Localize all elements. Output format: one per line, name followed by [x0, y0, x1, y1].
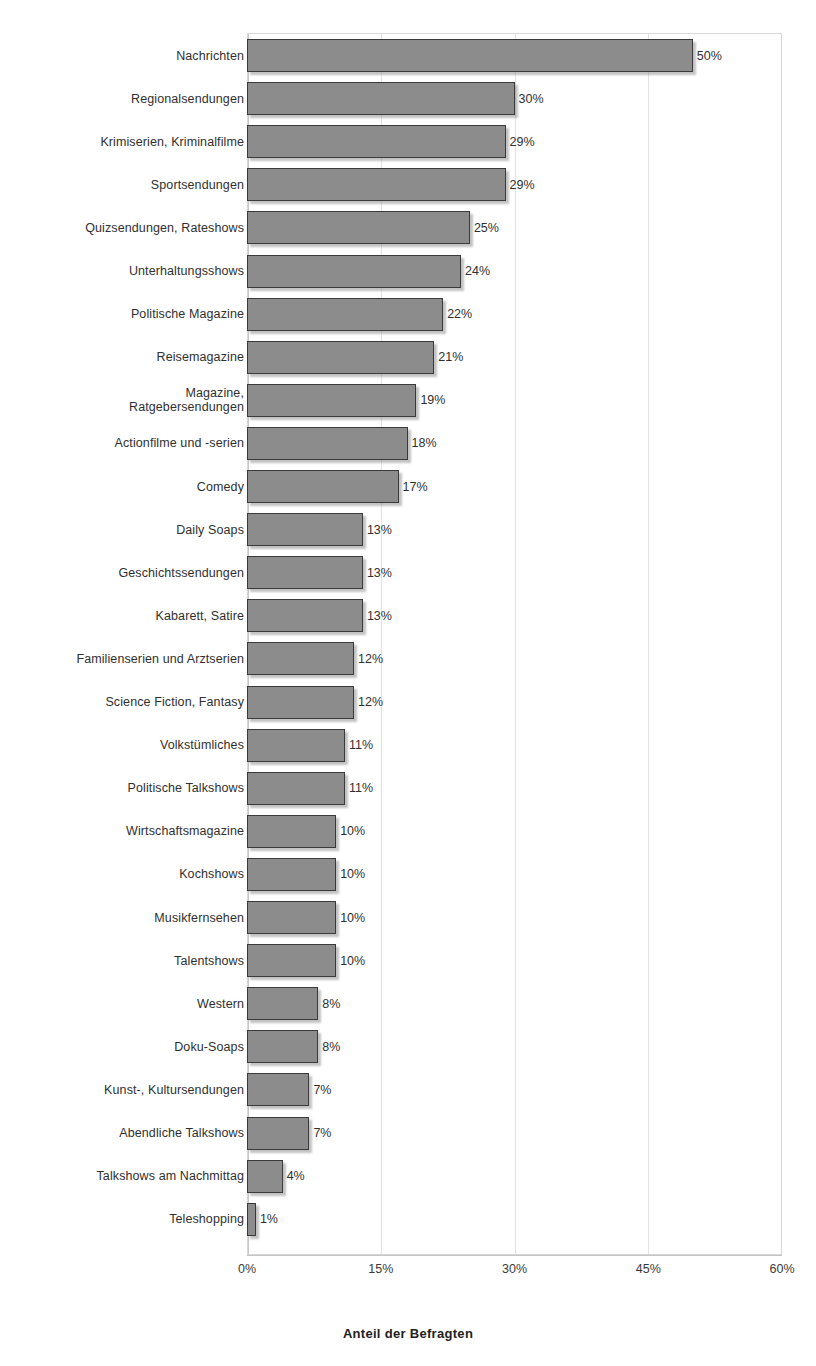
x-tick-label: 15%	[368, 1262, 393, 1276]
bar[interactable]	[247, 341, 434, 374]
category-label: Wirtschaftsmagazine	[0, 824, 244, 838]
category-label: Teleshopping	[0, 1212, 244, 1226]
category-label: Politische Talkshows	[0, 781, 244, 795]
x-axis-line	[247, 1255, 782, 1256]
bar[interactable]	[247, 470, 399, 503]
bar-track: 10%	[247, 901, 782, 934]
bar[interactable]	[247, 427, 408, 460]
bar[interactable]	[247, 211, 470, 244]
category-label: Politische Magazine	[0, 307, 244, 321]
bar-row: Comedy17%	[0, 470, 816, 503]
bar-row: Politische Talkshows11%	[0, 772, 816, 805]
bar[interactable]	[247, 384, 416, 417]
bar-track: 13%	[247, 556, 782, 589]
bar-row: Kunst-, Kultursendungen7%	[0, 1073, 816, 1106]
bar-track: 10%	[247, 944, 782, 977]
category-label: Magazine, Ratgebersendungen	[0, 386, 244, 414]
bar-track: 24%	[247, 255, 782, 288]
category-label: Familienserien und Arztserien	[0, 652, 244, 666]
bar-track: 13%	[247, 513, 782, 546]
bar[interactable]	[247, 513, 363, 546]
bar-row: Politische Magazine22%	[0, 298, 816, 331]
bar[interactable]	[247, 298, 443, 331]
bar-track: 19%	[247, 384, 782, 417]
bar-row: Sportsendungen29%	[0, 168, 816, 201]
bar[interactable]	[247, 858, 336, 891]
bar-value-label: 29%	[506, 135, 535, 149]
bar-value-label: 10%	[336, 911, 365, 925]
bar[interactable]	[247, 1203, 256, 1236]
category-label: Musikfernsehen	[0, 911, 244, 925]
category-label: Krimiserien, Kriminalfilme	[0, 135, 244, 149]
bar-row: Kochshows10%	[0, 858, 816, 891]
bar-row: Western8%	[0, 987, 816, 1020]
bar-row: Teleshopping1%	[0, 1203, 816, 1236]
bar-rows: Nachrichten50%Regionalsendungen30%Krimis…	[0, 33, 816, 1255]
bar-track: 12%	[247, 686, 782, 719]
category-label: Kunst-, Kultursendungen	[0, 1083, 244, 1097]
bar[interactable]	[247, 39, 693, 72]
bar-value-label: 25%	[470, 221, 499, 235]
bar[interactable]	[247, 556, 363, 589]
bar-track: 10%	[247, 815, 782, 848]
category-label: Science Fiction, Fantasy	[0, 695, 244, 709]
bar-value-label: 4%	[283, 1169, 305, 1183]
bar[interactable]	[247, 772, 345, 805]
category-label: Abendliche Talkshows	[0, 1126, 244, 1140]
bar-row: Doku-Soaps8%	[0, 1030, 816, 1063]
bar[interactable]	[247, 168, 506, 201]
bar[interactable]	[247, 987, 318, 1020]
bar-value-label: 13%	[363, 523, 392, 537]
category-label: Nachrichten	[0, 49, 244, 63]
category-label: Quizsendungen, Rateshows	[0, 221, 244, 235]
category-label: Talkshows am Nachmittag	[0, 1169, 244, 1183]
bar-value-label: 18%	[408, 436, 437, 450]
bar[interactable]	[247, 82, 515, 115]
bar[interactable]	[247, 729, 345, 762]
bar[interactable]	[247, 255, 461, 288]
x-tick-label: 60%	[769, 1262, 794, 1276]
bar-value-label: 22%	[443, 307, 472, 321]
bar-row: Krimiserien, Kriminalfilme29%	[0, 125, 816, 158]
bar-track: 30%	[247, 82, 782, 115]
bar-value-label: 17%	[399, 480, 428, 494]
bar-track: 18%	[247, 427, 782, 460]
bar-row: Talkshows am Nachmittag4%	[0, 1160, 816, 1193]
bar[interactable]	[247, 815, 336, 848]
bar[interactable]	[247, 1117, 309, 1150]
bar-value-label: 12%	[354, 695, 383, 709]
bar-row: Kabarett, Satire13%	[0, 599, 816, 632]
bar[interactable]	[247, 599, 363, 632]
bar[interactable]	[247, 642, 354, 675]
bar-value-label: 8%	[318, 997, 340, 1011]
bar-track: 1%	[247, 1203, 782, 1236]
bar-row: Regionalsendungen30%	[0, 82, 816, 115]
bar-track: 7%	[247, 1073, 782, 1106]
category-label: Volkstümliches	[0, 738, 244, 752]
bar-track: 7%	[247, 1117, 782, 1150]
x-tick-label: 30%	[502, 1262, 527, 1276]
bar[interactable]	[247, 1160, 283, 1193]
bar-track: 12%	[247, 642, 782, 675]
bar-row: Science Fiction, Fantasy12%	[0, 686, 816, 719]
bar[interactable]	[247, 1073, 309, 1106]
category-label: Doku-Soaps	[0, 1040, 244, 1054]
category-label: Daily Soaps	[0, 523, 244, 537]
bar[interactable]	[247, 1030, 318, 1063]
bar-row: Talentshows10%	[0, 944, 816, 977]
bar-track: 25%	[247, 211, 782, 244]
bar-track: 10%	[247, 858, 782, 891]
bar-value-label: 11%	[345, 781, 373, 795]
bar-track: 50%	[247, 39, 782, 72]
bar-value-label: 29%	[506, 178, 535, 192]
x-tick-label: 45%	[636, 1262, 661, 1276]
bar[interactable]	[247, 944, 336, 977]
bar-row: Geschichtssendungen13%	[0, 556, 816, 589]
bar[interactable]	[247, 686, 354, 719]
category-label: Kabarett, Satire	[0, 609, 244, 623]
bar-row: Volkstümliches11%	[0, 729, 816, 762]
bar[interactable]	[247, 125, 506, 158]
bar[interactable]	[247, 901, 336, 934]
x-tick-label: 0%	[238, 1262, 256, 1276]
bar-value-label: 21%	[434, 350, 463, 364]
